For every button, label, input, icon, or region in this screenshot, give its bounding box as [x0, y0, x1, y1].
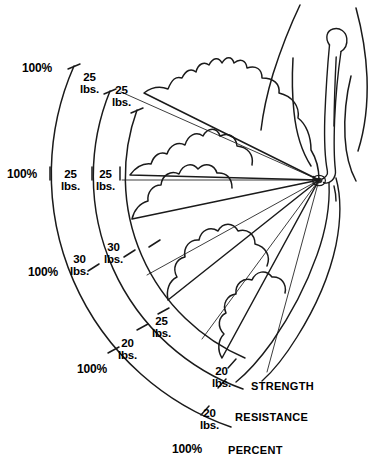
strength-unit-middle: lbs. [96, 180, 115, 192]
resistance-label-lower: 20 lbs. [118, 338, 137, 362]
resistance-value-bottom: 20 [203, 407, 215, 419]
resistance-label-bottom: 20 lbs. [200, 408, 219, 432]
legend-resistance: RESISTANCE [235, 411, 308, 423]
strength-unit-top: lbs. [112, 96, 131, 108]
strength-value-lower: 25 [155, 315, 167, 327]
resistance-label-lower-middle: 30 lbs. [70, 254, 89, 278]
strength-value-top: 25 [115, 84, 127, 96]
figure-canvas: 100% 25 lbs. 25 lbs. 100% 25 lbs. 25 lbs… [0, 0, 378, 465]
strength-value-middle: 25 [99, 168, 111, 180]
strength-unit-lower-middle: lbs. [104, 253, 123, 265]
resistance-unit-lower-middle: lbs. [70, 265, 89, 277]
resistance-unit-top: lbs. [80, 83, 99, 95]
humerus-bone [314, 29, 347, 183]
strength-label-middle: 25 lbs. [96, 169, 115, 193]
strength-label-top: 25 lbs. [112, 85, 131, 109]
resistance-value-top: 25 [83, 71, 95, 83]
legend-strength: STRENGTH [251, 380, 314, 392]
strength-label-lower-middle: 30 lbs. [104, 242, 123, 266]
resistance-unit-lower: lbs. [118, 349, 137, 361]
percent-label-lower: 100% [77, 364, 107, 376]
strength-unit-bottom: lbs. [212, 377, 231, 389]
resistance-unit-bottom: lbs. [200, 419, 219, 431]
resistance-unit-middle: lbs. [61, 180, 80, 192]
resistance-value-lower-middle: 30 [73, 253, 85, 265]
resistance-value-middle: 25 [64, 168, 76, 180]
percent-label-top: 100% [22, 63, 52, 75]
strength-label-bottom: 20 lbs. [212, 366, 231, 390]
percent-label-middle: 100% [7, 169, 37, 181]
legend-percent: PERCENT [228, 444, 283, 456]
percent-label-bottom: 100% [172, 444, 202, 456]
strength-unit-lower: lbs. [152, 327, 171, 339]
strength-arc [125, 110, 245, 358]
strength-label-lower: 25 lbs. [152, 316, 171, 340]
strength-value-lower-middle: 30 [107, 241, 119, 253]
resistance-label-middle: 25 lbs. [61, 169, 80, 193]
strength-value-bottom: 20 [215, 365, 227, 377]
resistance-value-lower: 20 [121, 337, 133, 349]
resistance-label-top: 25 lbs. [80, 72, 99, 96]
diagram-svg [0, 0, 378, 465]
percent-label-lower-middle: 100% [28, 267, 58, 279]
